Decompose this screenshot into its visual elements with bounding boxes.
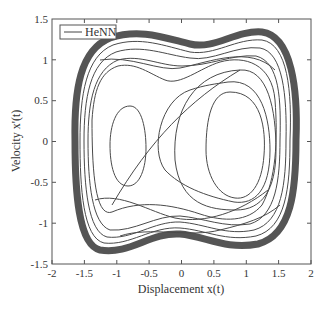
x-axis-label: Displacement x(t) — [138, 282, 224, 296]
svg-text:-2: -2 — [47, 267, 56, 279]
svg-text:0.5: 0.5 — [207, 267, 221, 279]
y-axis-label: Velocity x'(t) — [9, 110, 23, 172]
svg-text:1: 1 — [244, 267, 250, 279]
svg-text:2: 2 — [308, 267, 314, 279]
y-tick-labels: -1.5 -1 -0.5 0 0.5 1 1.5 — [31, 13, 49, 270]
x-tick-labels: -2 -1.5 -1 -0.5 0 0.5 1 1.5 2 — [47, 267, 313, 279]
svg-text:1: 1 — [43, 54, 49, 66]
svg-text:-1.5: -1.5 — [31, 258, 49, 270]
svg-text:-0.5: -0.5 — [31, 176, 49, 188]
trajectory-series-henn — [75, 32, 296, 251]
phase-portrait-chart: -2 -1.5 -1 -0.5 0 0.5 1 1.5 2 -1.5 -1 -0… — [0, 0, 330, 310]
svg-text:-0.5: -0.5 — [140, 267, 158, 279]
svg-text:-1: -1 — [39, 217, 48, 229]
svg-text:-1.5: -1.5 — [76, 267, 94, 279]
legend-entry-henn: HeNN — [85, 25, 117, 39]
svg-text:0: 0 — [43, 135, 49, 147]
legend: HeNN — [60, 25, 117, 39]
svg-text:1.5: 1.5 — [272, 267, 286, 279]
svg-text:0.5: 0.5 — [34, 94, 48, 106]
svg-text:1.5: 1.5 — [34, 13, 48, 25]
svg-text:0: 0 — [179, 267, 185, 279]
svg-text:-1: -1 — [112, 267, 121, 279]
